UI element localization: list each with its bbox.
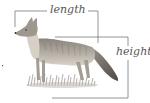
coyote-head xyxy=(15,17,38,37)
coyote-measurement-diagram: length height xyxy=(0,0,150,103)
stray-mark xyxy=(2,65,3,66)
ground-shadow xyxy=(26,82,98,88)
coyote-nose xyxy=(15,32,17,34)
length-label: length xyxy=(48,4,88,16)
coyote-eye xyxy=(25,29,27,31)
height-label: height xyxy=(115,46,150,58)
